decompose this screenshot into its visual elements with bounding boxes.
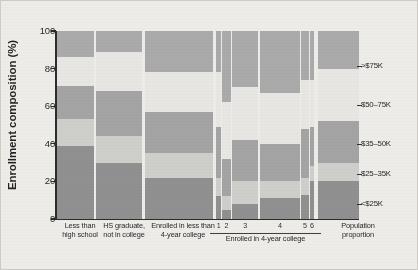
bar-tier-3[interactable] — [232, 31, 259, 219]
bar-segment-75k — [318, 31, 359, 69]
bar-segment-25-35k — [310, 166, 314, 181]
y-tick-label-text: 0 — [25, 214, 55, 223]
bar-segment-25k — [216, 196, 221, 219]
bar-segment-50-75k — [145, 72, 213, 111]
bar-segment-25-35k — [232, 181, 259, 204]
bar-segment-25-35k — [216, 178, 221, 197]
bar-population-proportion[interactable] — [318, 31, 359, 219]
x-label-line: 4-year college — [161, 230, 205, 239]
bar-segment-25k — [318, 181, 359, 219]
bar-segment-25-35k — [57, 119, 94, 145]
chart-figure: Enrollment composition (%) 020406080100 … — [0, 0, 418, 270]
x-tier-number-4: 4 — [272, 222, 288, 230]
legend-item-gt-75k: >$75K — [361, 61, 383, 71]
bar-segment-35-50k — [145, 112, 213, 153]
bar-segment-75k — [57, 31, 94, 57]
bar-less-than-high-school[interactable] — [57, 31, 94, 219]
bar-segment-75k — [216, 31, 221, 72]
bar-segment-50-75k — [310, 80, 314, 127]
bar-segment-25-35k — [318, 163, 359, 182]
bar-tier-6[interactable] — [310, 31, 314, 219]
bar-segment-25k — [145, 178, 213, 219]
bar-segment-35-50k — [96, 91, 142, 136]
y-tick-label-text: 20 — [25, 176, 55, 185]
y-tick-label-100: 100 — [15, 26, 55, 36]
x-label-line: not in college — [103, 230, 144, 239]
bar-segment-35-50k — [260, 144, 301, 182]
y-tick-label-80: 80 — [15, 64, 55, 74]
y-tick-label-0: 0 — [15, 214, 55, 224]
x-tier-number-6: 6 — [304, 222, 320, 230]
y-tick-label-text: 100 — [25, 26, 55, 35]
bar-segment-25k — [310, 181, 314, 219]
bar-tier-5[interactable] — [301, 31, 308, 219]
bar-segment-35-50k — [310, 127, 314, 166]
x-group-label-4yr-college: Enrolled in 4-year college — [210, 235, 321, 244]
bar-segment-50-75k — [260, 93, 301, 144]
bar-segment-50-75k — [318, 69, 359, 122]
bar-segment-50-75k — [216, 72, 221, 127]
bar-segment-25k — [260, 198, 301, 219]
bar-segment-35-50k — [232, 140, 259, 181]
x-label-hs-graduate: HS graduate, not in college — [97, 222, 151, 239]
x-tier-number-2: 2 — [218, 222, 234, 230]
bar-segment-35-50k — [318, 121, 359, 162]
x-tier-number-3: 3 — [237, 222, 253, 230]
x-label-line: high school — [62, 230, 98, 239]
bar-segment-35-50k — [222, 159, 230, 197]
bar-hs-graduate-not-in-college[interactable] — [96, 31, 142, 219]
bar-segment-25-35k — [301, 178, 308, 195]
plot-area — [57, 31, 359, 219]
legend-item-35-50k: $35–50K — [361, 139, 391, 149]
bar-segment-75k — [96, 31, 142, 52]
bar-segment-50-75k — [232, 87, 259, 140]
legend-item-lt-25k: <$25K — [361, 199, 383, 209]
bar-segment-35-50k — [301, 129, 308, 178]
bar-segment-25k — [96, 163, 142, 219]
bar-tier-2[interactable] — [222, 31, 230, 219]
y-tick-label-60: 60 — [15, 101, 55, 111]
legend-item-25-35k: $25–35K — [361, 169, 391, 179]
bar-segment-75k — [222, 31, 230, 102]
bar-segment-50-75k — [301, 80, 308, 129]
bar-segment-25k — [57, 146, 94, 219]
bar-segment-75k — [232, 31, 259, 87]
bar-segment-75k — [260, 31, 301, 93]
bar-enrolled-in-less-than-4-year-college[interactable] — [145, 31, 213, 219]
bar-segment-35-50k — [216, 127, 221, 178]
x-label-population-proportion: Population proportion — [335, 222, 381, 239]
x-label-line: proportion — [342, 230, 374, 239]
bar-segment-50-75k — [57, 57, 94, 85]
bar-segment-50-75k — [222, 102, 230, 158]
bar-segment-25-35k — [145, 153, 213, 177]
bar-tier-1[interactable] — [216, 31, 221, 219]
y-tick-label-text: 60 — [25, 101, 55, 110]
bar-segment-25-35k — [96, 136, 142, 162]
bar-segment-25-35k — [222, 196, 230, 209]
bar-segment-25k — [222, 210, 230, 219]
bar-tier-4[interactable] — [260, 31, 301, 219]
y-tick-label-40: 40 — [15, 139, 55, 149]
bar-segment-25k — [232, 204, 259, 219]
y-tick-label-20: 20 — [15, 176, 55, 186]
legend-item-50-75k: $50–75K — [361, 100, 391, 110]
bar-segment-75k — [301, 31, 308, 80]
bar-segment-75k — [310, 31, 314, 80]
y-tick-label-text: 80 — [25, 64, 55, 73]
y-tick-label-text: 40 — [25, 139, 55, 148]
bar-segment-75k — [145, 31, 213, 72]
bar-segment-50-75k — [96, 52, 142, 91]
bar-segment-35-50k — [57, 86, 94, 120]
bar-segment-25k — [301, 195, 308, 219]
bar-segment-25-35k — [260, 181, 301, 198]
